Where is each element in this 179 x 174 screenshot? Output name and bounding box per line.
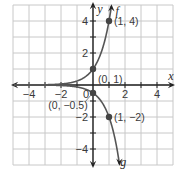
- exponential-graph: −4−22442−2−40xyfg(0, 1)(1, 4)(0, −0.5)(1…: [0, 0, 179, 174]
- data-point: [90, 66, 96, 72]
- data-point: [106, 18, 112, 24]
- y-tick-label: 4: [82, 15, 88, 27]
- x-tick-label: −4: [23, 88, 36, 100]
- y-tick-label: −2: [75, 111, 88, 123]
- point-label: (0, −0.5): [48, 99, 87, 111]
- point-label: (1, −2): [114, 111, 145, 123]
- x-axis-label: x: [167, 69, 174, 83]
- x-tick-label: 4: [154, 88, 160, 100]
- y-tick-label: −4: [75, 143, 88, 155]
- point-label: (0, 1): [98, 73, 123, 85]
- series-label-g: g: [120, 155, 126, 169]
- data-point: [106, 114, 112, 120]
- y-tick-label: 2: [82, 47, 88, 59]
- x-tick-label: 2: [122, 88, 128, 100]
- point-label: (1, 4): [114, 15, 139, 27]
- curve-f: [14, 6, 112, 85]
- y-axis-label: y: [96, 2, 103, 16]
